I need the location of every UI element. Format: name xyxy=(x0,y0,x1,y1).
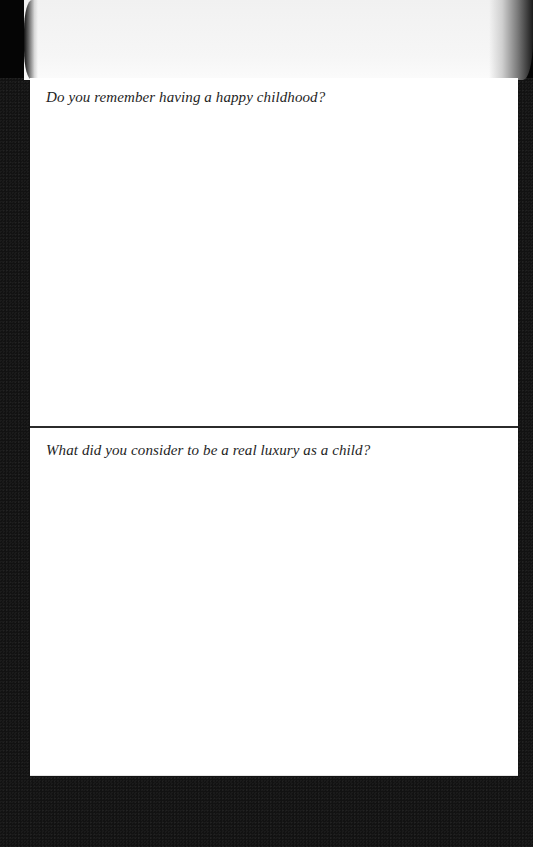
prompt-section-1: Do you remember having a happy childhood… xyxy=(30,78,518,427)
answer-area-2[interactable] xyxy=(46,469,502,766)
prompt-question-2: What did you consider to be a real luxur… xyxy=(46,442,370,459)
section-divider xyxy=(30,426,518,428)
prompt-section-2: What did you consider to be a real luxur… xyxy=(30,429,518,776)
prompt-question-1: Do you remember having a happy childhood… xyxy=(46,89,325,106)
page-curl-right-shadow xyxy=(489,0,533,80)
answer-area-1[interactable] xyxy=(46,118,502,417)
journal-page: Do you remember having a happy childhood… xyxy=(30,78,518,776)
curled-previous-page xyxy=(24,0,519,80)
page-curl-left-shadow xyxy=(24,0,38,80)
